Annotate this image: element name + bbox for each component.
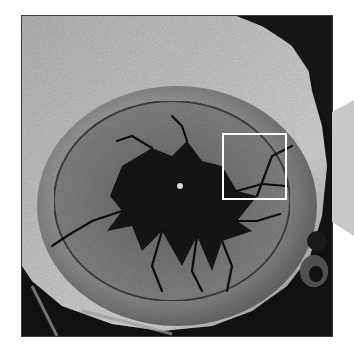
- highlight-box: [222, 133, 287, 200]
- callout-arrow-shape: [332, 96, 354, 238]
